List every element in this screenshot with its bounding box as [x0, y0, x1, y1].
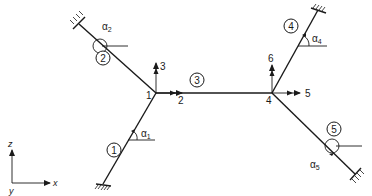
svg-text:6: 6: [268, 53, 274, 64]
structure-diagram: α1 α2 α4 α5 1 2 3 4 5 1 4: [0, 0, 372, 196]
node-label-1: 1: [146, 90, 152, 101]
svg-text:2: 2: [100, 53, 106, 64]
svg-text:3: 3: [160, 61, 166, 72]
axis-z-label: z: [7, 139, 13, 149]
svg-text:5: 5: [331, 124, 337, 135]
svg-text:α5: α5: [310, 159, 320, 171]
svg-text:α1: α1: [141, 128, 151, 140]
svg-text:1: 1: [111, 145, 117, 156]
member-label-3: 3: [190, 73, 204, 87]
member-2: [79, 24, 156, 93]
svg-text:α2: α2: [102, 21, 112, 33]
axis-x-label: x: [52, 178, 58, 188]
member-label-4: 4: [284, 19, 298, 33]
fixed-support-bottom-left-icon: [95, 184, 111, 190]
node-label-4: 4: [266, 95, 272, 106]
angle-alpha-2: α2: [93, 21, 128, 53]
svg-text:4: 4: [288, 21, 294, 32]
dof-arrow-2: 2: [156, 91, 184, 107]
member-label-5: 5: [327, 122, 341, 136]
axis-triad: z x y: [7, 139, 58, 196]
svg-text:5: 5: [305, 88, 311, 99]
axis-y-label: y: [8, 186, 14, 196]
svg-text:2: 2: [178, 95, 184, 106]
fixed-support-top-left-icon: [70, 11, 85, 29]
svg-text:3: 3: [194, 75, 200, 86]
member-label-2: 2: [96, 51, 110, 65]
dof-arrow-3: 3: [154, 61, 167, 93]
dof-arrow-6: 6: [268, 53, 275, 93]
member-label-1: 1: [107, 143, 121, 157]
svg-text:α4: α4: [312, 33, 322, 45]
fixed-support-top-right-icon: [311, 4, 326, 13]
dof-arrow-5: 5: [272, 88, 311, 99]
